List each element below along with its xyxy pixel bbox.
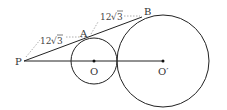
label-P: P [15,56,22,67]
svg-text:12: 12 [40,36,51,46]
svg-text:3: 3 [117,12,123,22]
label-O: O [90,66,98,77]
dimension-label-AB: 12 √ 3 [100,11,123,22]
label-O-prime: O′ [158,66,169,77]
geometry-diagram: P A B O O′ 12 √ 3 12 √ 3 [0,0,227,110]
label-B: B [144,6,151,17]
svg-text:12: 12 [100,12,111,22]
svg-text:3: 3 [57,36,63,46]
dimension-label-PA: 12 √ 3 [40,35,63,46]
center-dot-O [93,60,96,63]
label-A: A [79,28,88,39]
center-dot-O-prime [162,60,165,63]
